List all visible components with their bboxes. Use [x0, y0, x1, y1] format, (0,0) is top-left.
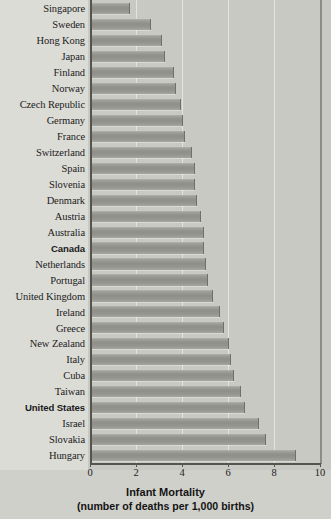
bar-row: Germany — [0, 113, 331, 129]
bar-row: Australia — [0, 224, 331, 240]
bar-track — [88, 400, 331, 416]
bar-slovenia — [90, 179, 195, 190]
category-label-italy: Italy — [0, 354, 88, 365]
bar-track — [88, 113, 331, 129]
bar-track — [88, 65, 331, 81]
bar-track — [88, 240, 331, 256]
bar-track — [88, 256, 331, 272]
bar-italy — [90, 354, 231, 365]
bar-australia — [90, 227, 204, 238]
category-label-united-states: United States — [0, 402, 88, 413]
category-label-hungary: Hungary — [0, 450, 88, 461]
bar-portugal — [90, 274, 208, 285]
bar-row: Austria — [0, 208, 331, 224]
bar-taiwan — [90, 386, 241, 397]
bar-cuba — [90, 370, 234, 381]
bar-row: Slovakia — [0, 432, 331, 448]
bar-track — [88, 224, 331, 240]
bar-row: France — [0, 129, 331, 145]
category-label-united-kingdom: United Kingdom — [0, 291, 88, 302]
x-axis-line — [90, 463, 321, 465]
category-label-sweden: Sweden — [0, 19, 88, 30]
category-label-israel: Israel — [0, 418, 88, 429]
bar-rows: SingaporeSwedenHong KongJapanFinlandNorw… — [0, 1, 331, 464]
bar-row: Slovenia — [0, 176, 331, 192]
plot-right-border — [320, 0, 322, 464]
bar-austria — [90, 211, 201, 222]
bar-track — [88, 49, 331, 65]
bar-track — [88, 1, 331, 17]
bar-row: Hungary — [0, 448, 331, 464]
bar-track — [88, 320, 331, 336]
x-axis-subtitle: (number of deaths per 1,000 births) — [0, 500, 331, 512]
bar-track — [88, 33, 331, 49]
category-label-austria: Austria — [0, 211, 88, 222]
category-label-japan: Japan — [0, 51, 88, 62]
bar-united-kingdom — [90, 290, 213, 301]
bar-sweden — [90, 19, 151, 30]
bar-canada — [90, 242, 204, 253]
bar-germany — [90, 115, 183, 126]
x-tick-label-2: 2 — [133, 467, 138, 478]
bar-united-states — [90, 402, 245, 413]
bar-row: Greece — [0, 320, 331, 336]
bar-row: Hong Kong — [0, 33, 331, 49]
bar-track — [88, 129, 331, 145]
bar-row: Sweden — [0, 17, 331, 33]
bar-france — [90, 131, 185, 142]
bar-hong-kong — [90, 35, 162, 46]
bar-singapore — [90, 3, 130, 14]
bar-row: Netherlands — [0, 256, 331, 272]
bar-track — [88, 145, 331, 161]
x-tick-label-10: 10 — [315, 467, 326, 478]
bar-row: Portugal — [0, 272, 331, 288]
bar-track — [88, 176, 331, 192]
bar-track — [88, 304, 331, 320]
bar-row: United States — [0, 400, 331, 416]
bar-row: Switzerland — [0, 145, 331, 161]
category-label-portugal: Portugal — [0, 275, 88, 286]
bar-row: Japan — [0, 49, 331, 65]
bar-row: Italy — [0, 352, 331, 368]
category-label-singapore: Singapore — [0, 3, 88, 14]
infant-mortality-bar-chart: SingaporeSwedenHong KongJapanFinlandNorw… — [0, 0, 331, 519]
bar-spain — [90, 163, 195, 174]
bar-track — [88, 81, 331, 97]
bar-row: Canada — [0, 240, 331, 256]
bar-track — [88, 17, 331, 33]
x-axis-title: Infant Mortality — [0, 486, 331, 498]
bar-netherlands — [90, 258, 206, 269]
x-tick-label-6: 6 — [225, 467, 230, 478]
bar-row: Czech Republic — [0, 97, 331, 113]
bar-finland — [90, 67, 174, 78]
bar-track — [88, 432, 331, 448]
bar-hungary — [90, 450, 296, 461]
bar-track — [88, 208, 331, 224]
bar-row: Denmark — [0, 192, 331, 208]
bar-row: New Zealand — [0, 336, 331, 352]
bar-track — [88, 272, 331, 288]
bar-row: Finland — [0, 65, 331, 81]
bar-japan — [90, 51, 165, 62]
category-label-finland: Finland — [0, 67, 88, 78]
y-axis-line — [90, 0, 92, 464]
category-label-norway: Norway — [0, 83, 88, 94]
bar-track — [88, 97, 331, 113]
category-label-canada: Canada — [0, 243, 88, 254]
category-label-germany: Germany — [0, 115, 88, 126]
x-tick-label-8: 8 — [271, 467, 276, 478]
category-label-slovakia: Slovakia — [0, 434, 88, 445]
bar-switzerland — [90, 147, 192, 158]
category-label-switzerland: Switzerland — [0, 147, 88, 158]
bar-row: United Kingdom — [0, 288, 331, 304]
bar-row: Spain — [0, 161, 331, 177]
x-tick-label-0: 0 — [87, 467, 92, 478]
category-label-denmark: Denmark — [0, 195, 88, 206]
bar-track — [88, 448, 331, 464]
category-label-france: France — [0, 131, 88, 142]
category-label-greece: Greece — [0, 323, 88, 334]
bar-greece — [90, 322, 224, 333]
bar-row: Israel — [0, 416, 331, 432]
bar-ireland — [90, 306, 220, 317]
bar-track — [88, 352, 331, 368]
